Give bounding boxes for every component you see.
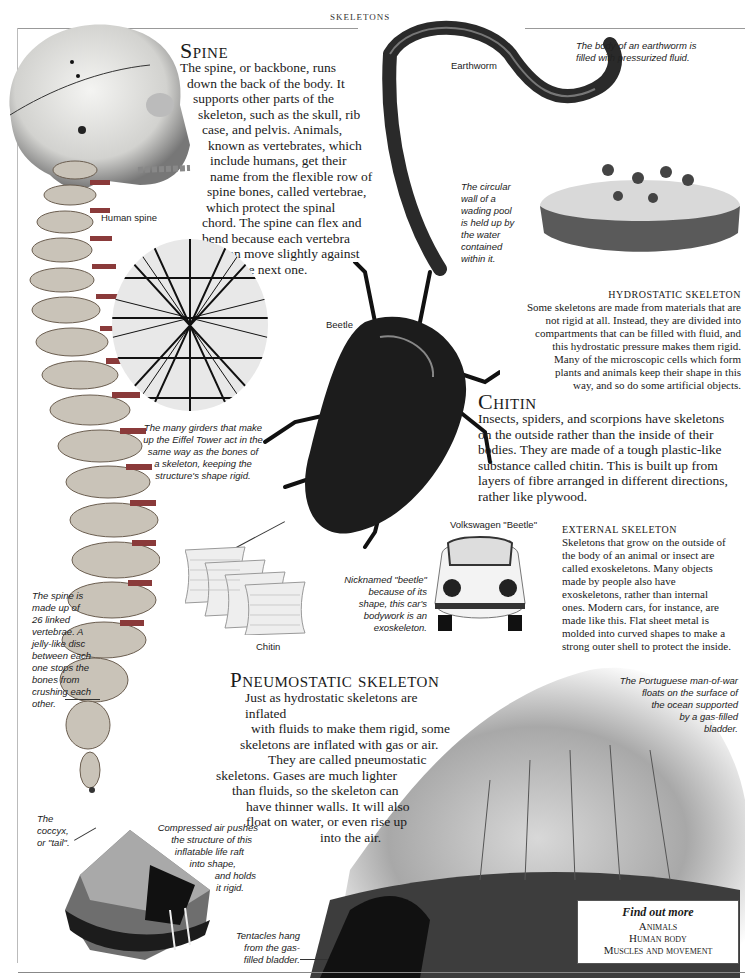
tentacles-caption: Tentacles hangfrom the gas- filled bladd…: [220, 930, 300, 966]
find-out-more-title: Find out more: [578, 905, 738, 920]
life-raft-caption: Compressed air pushes the structure of t…: [150, 822, 258, 894]
find-out-more-link-animals[interactable]: Animals: [578, 920, 738, 932]
vw-beetle-caption: Nicknamed "beetle"because of its shape, …: [335, 574, 427, 634]
find-out-more-link-human-body[interactable]: Human body: [578, 932, 738, 944]
find-out-more-box: Find out more Animals Human body Muscles…: [577, 900, 739, 964]
chitin-label: Chitin: [256, 641, 280, 652]
vw-beetle-image: [430, 533, 530, 633]
find-out-more-link-muscles[interactable]: Muscles and movement: [578, 944, 738, 956]
eiffel-tower-image: [110, 238, 270, 413]
vertebrae-caption: The spine ismade up of 26 linkedvertebra…: [32, 590, 91, 710]
human-spine-label: Human spine: [101, 212, 157, 223]
vertebrae-leader-line: [65, 699, 100, 700]
earthworm-caption: The body of an earthworm isfilled with p…: [576, 40, 696, 64]
tentacles-leader-line: [300, 959, 328, 960]
beetle-label: Beetle: [326, 319, 353, 330]
external-skeleton-heading: EXTERNAL SKELETON: [562, 523, 745, 536]
chitin-body: Insects, spiders, and scorpions have ske…: [478, 411, 743, 504]
beetle-image: [255, 262, 500, 552]
wading-pool-image: [538, 148, 743, 258]
earthworm-label: Earthworm: [451, 60, 497, 71]
vw-beetle-label: Volkswagen "Beetle": [450, 519, 537, 530]
footer-rule: [18, 972, 745, 973]
hydrostatic-section: HYDROSTATIC SKELETON Some skeletons are …: [505, 288, 741, 392]
wading-pool-caption: The circularwall of a wading poolis held…: [461, 181, 514, 265]
chitin-layers-diagram: [185, 545, 325, 635]
hydrostatic-heading: HYDROSTATIC SKELETON: [505, 288, 741, 301]
external-skeleton-section: EXTERNAL SKELETON Skeletons that grow on…: [562, 523, 745, 653]
man-of-war-caption: The Portuguese man-of-warfloats on the s…: [608, 675, 738, 735]
